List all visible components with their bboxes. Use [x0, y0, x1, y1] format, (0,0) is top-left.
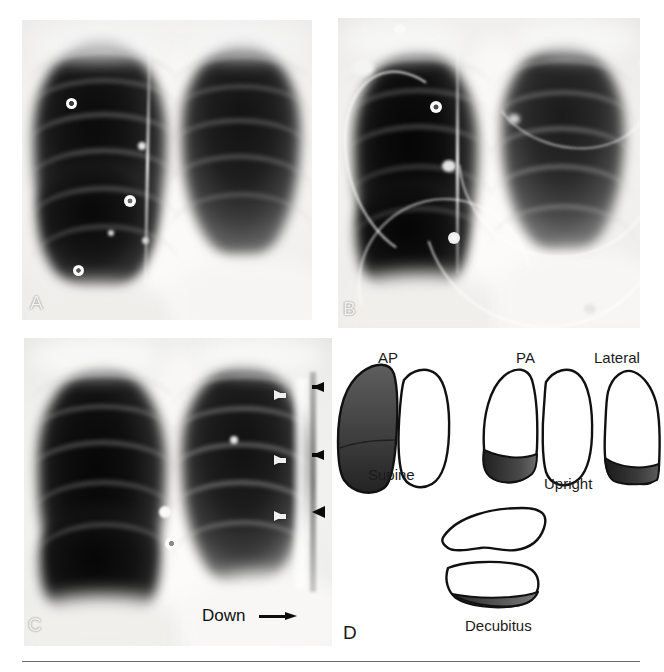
panel-label-c: C: [28, 614, 42, 636]
diagram-label-decubitus: Decubitus: [465, 617, 532, 634]
black-arrow-annotation: [312, 450, 324, 460]
white-arrow-annotation: [274, 455, 285, 465]
white-arrow-annotation: [274, 511, 285, 521]
down-arrow-icon: [259, 612, 297, 621]
figure-bottom-rule: [22, 661, 640, 662]
radiopaque-marker: [124, 195, 136, 207]
radiopaque-marker: [165, 537, 178, 550]
panel-b: B: [338, 18, 640, 328]
down-orientation-annotation: Down: [202, 606, 297, 626]
pleural-stripe: [310, 372, 316, 592]
diagram-label-pa: PA: [516, 349, 535, 366]
diagram-label-upright: Upright: [544, 475, 592, 492]
down-label: Down: [202, 606, 245, 626]
pleural-fluid-diagram: [332, 336, 664, 646]
diagram-label-lateral: Lateral: [594, 349, 640, 366]
radiograph-image-a: [22, 20, 312, 320]
diagram-label-supine: Supine: [368, 466, 415, 483]
radiopaque-marker: [430, 101, 442, 113]
pleural-stripe: [292, 378, 308, 588]
panel-label-a: A: [30, 292, 43, 314]
black-arrowhead-annotation: [312, 506, 325, 518]
radiograph-image-c: [24, 338, 332, 646]
radiopaque-marker: [448, 232, 460, 244]
diagram-label-ap: AP: [378, 349, 398, 366]
black-arrow-annotation: [312, 382, 324, 392]
panel-d: AP PA Lateral Supine Upright Decubitus D: [332, 336, 664, 646]
radiopaque-marker: [66, 98, 77, 109]
figure-container: A: [0, 0, 664, 672]
white-arrow-annotation: [274, 390, 285, 400]
panel-label-b: B: [343, 298, 356, 320]
radiopaque-marker: [159, 506, 171, 518]
panel-label-d: D: [343, 622, 357, 644]
radiograph-image-b: [338, 18, 640, 328]
panel-c: Down C: [24, 338, 332, 646]
radiopaque-marker: [73, 265, 84, 276]
panel-a: A: [22, 20, 312, 320]
